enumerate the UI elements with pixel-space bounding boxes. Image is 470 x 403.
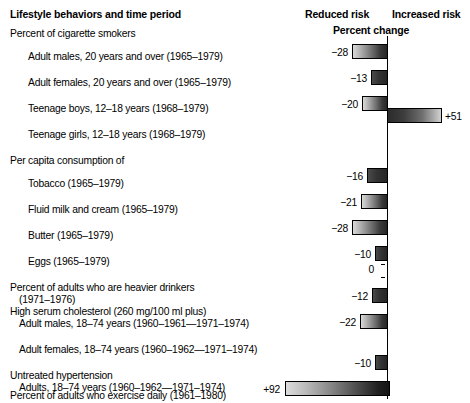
value-exercise-daily: +92 xyxy=(252,384,280,395)
bar-eggs xyxy=(375,246,388,261)
value-hypertension-adults: −10 xyxy=(339,358,371,369)
axis-tick-lower xyxy=(381,277,385,278)
group-label-cigarette-smokers: Percent of cigarette smokers xyxy=(10,28,135,40)
row-label-heavier-drinkers-period: (1971–1976) xyxy=(19,294,75,306)
row-label-teenage-girls-smokers: Teenage girls, 12–18 years (1968–1979) xyxy=(28,129,205,141)
row-label-eggs: Eggs (1965–1979) xyxy=(28,256,110,268)
value-teenage-girls-smokers: +51 xyxy=(445,111,462,122)
bar-adult-females-smokers xyxy=(371,70,388,85)
value-fluid-milk-and-cream: −21 xyxy=(325,197,357,208)
group-label-untreated-hypertension: Untreated hypertension xyxy=(10,370,113,382)
row-label-fluid-milk-and-cream: Fluid milk and cream (1965–1979) xyxy=(28,204,178,216)
group-label-high-serum-cholesterol: High serum cholesterol (260 mg/100 ml pl… xyxy=(10,306,206,318)
value-cholesterol-adult-males: −12 xyxy=(336,291,368,302)
page-title: Lifestyle behaviors and time period xyxy=(10,8,181,20)
row-label-teenage-boys-smokers: Teenage boys, 12–18 years (1968–1979) xyxy=(28,103,208,115)
row-label-cholesterol-adult-males: Adult males, 18–74 years (1960–1961—1971… xyxy=(19,318,249,330)
value-heavier-drinkers: 0 xyxy=(348,264,374,275)
row-label-tobacco: Tobacco (1965–1979) xyxy=(28,178,124,190)
value-adult-females-smokers: −13 xyxy=(335,73,367,84)
bar-exercise-daily xyxy=(285,381,390,396)
axis-tick-upper xyxy=(381,264,385,265)
bar-teenage-boys-smokers xyxy=(362,96,388,111)
bar-adult-males-smokers xyxy=(352,44,388,59)
row-label-adult-males-smokers: Adult males, 20 years and over (1965–197… xyxy=(28,51,223,63)
axis-title-percent-change: Percent change xyxy=(333,24,409,36)
chart-canvas: Lifestyle behaviors and time period Redu… xyxy=(0,0,470,403)
row-label-adult-females-smokers: Adult females, 20 years and over (1965–1… xyxy=(28,77,231,89)
bar-tobacco xyxy=(367,168,388,183)
group-label-exercise-daily: Percent of adults who exercise daily (19… xyxy=(10,390,226,402)
bar-hypertension-adults xyxy=(375,355,388,370)
bar-fluid-milk-and-cream xyxy=(361,194,388,209)
value-eggs: −10 xyxy=(339,249,371,260)
row-label-butter: Butter (1965–1979) xyxy=(28,230,113,242)
group-label-per-capita-consumption: Per capita consumption of xyxy=(10,155,124,167)
value-butter: −28 xyxy=(316,223,348,234)
value-tobacco: −16 xyxy=(331,171,363,182)
legend-reduced-risk: Reduced risk xyxy=(305,8,369,20)
bar-teenage-girls-smokers xyxy=(387,108,442,123)
group-label-heavier-drinkers: Percent of adults who are heavier drinke… xyxy=(10,282,194,294)
row-label-cholesterol-adult-females: Adult females, 18–74 years (1960–1962—19… xyxy=(19,344,257,356)
bar-cholesterol-adult-males xyxy=(372,288,388,303)
bar-butter xyxy=(352,220,388,235)
zero-axis-line xyxy=(387,36,388,399)
bar-cholesterol-adult-females xyxy=(360,314,388,329)
legend-increased-risk: Increased risk xyxy=(392,8,461,20)
value-adult-males-smokers: −28 xyxy=(316,47,348,58)
value-teenage-boys-smokers: −20 xyxy=(326,99,358,110)
value-cholesterol-adult-females: −22 xyxy=(324,317,356,328)
